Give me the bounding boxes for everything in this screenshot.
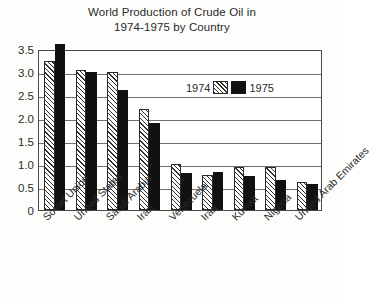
- y-tick-label: 2.5: [0, 91, 34, 102]
- legend-label-1974: 1974: [186, 82, 210, 94]
- y-tick-label: 1.0: [0, 160, 34, 171]
- bar-group: [234, 51, 255, 210]
- y-tick-label: 0.5: [0, 183, 34, 194]
- chart-legend: 1974 1975: [186, 80, 274, 95]
- legend-label-1975: 1975: [249, 82, 273, 94]
- y-axis: 00.51.01.52.02.53.03.5: [0, 50, 34, 211]
- legend-swatch-1975: [231, 81, 246, 94]
- y-tick-label: 3.0: [0, 68, 34, 79]
- chart-title-line-2: 1974-1975 by Country: [0, 20, 344, 35]
- bar-group: [265, 51, 286, 210]
- bar-group: [171, 51, 192, 210]
- bar-1974: [44, 61, 55, 211]
- chart-title-line-1: World Production of Crude Oil in: [0, 5, 344, 20]
- bar-group: [297, 51, 318, 210]
- x-axis-category-labels: Soviet UnionUnited StatesSaudi ArabiaIra…: [0, 211, 344, 298]
- y-tick-label: 2.0: [0, 114, 34, 125]
- bar-1975: [149, 123, 160, 210]
- bar-1975: [55, 44, 66, 210]
- bar-1974: [139, 109, 150, 210]
- y-tick-label: 3.5: [0, 45, 34, 56]
- chart-title: World Production of Crude Oil in 1974-19…: [0, 5, 344, 35]
- y-tick-label: 1.5: [0, 137, 34, 148]
- legend-swatch-1974: [213, 81, 228, 94]
- bar-group: [44, 51, 65, 210]
